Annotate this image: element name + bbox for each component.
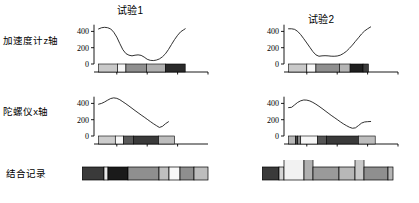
y-tick-label: 200 — [77, 116, 89, 125]
x-tick-label: 20 — [303, 147, 311, 148]
combined-segment — [104, 167, 108, 180]
column-title-trial1: 试验1 — [117, 2, 143, 17]
combined-segment — [304, 160, 313, 180]
combined-segment — [279, 167, 284, 180]
segment-band — [99, 136, 175, 144]
segment — [317, 136, 326, 144]
x-tick-label: 40 — [333, 75, 341, 76]
segment — [339, 64, 350, 72]
signal-line — [289, 27, 371, 56]
segment — [298, 136, 301, 144]
segment — [159, 136, 175, 144]
y-tick-label: 400 — [267, 27, 279, 36]
y-tick-label: 0 — [85, 60, 89, 69]
x-tick-label: 60 — [174, 75, 182, 76]
x-tick-label: 40 — [333, 147, 341, 148]
x-tick-label: 20 — [113, 75, 121, 76]
combined-segment — [128, 167, 159, 180]
combined-segment — [313, 167, 339, 180]
segment — [115, 136, 123, 144]
y-tick-label: 400 — [77, 99, 89, 108]
combined-record-trial2 — [262, 160, 402, 186]
combined-segment — [108, 167, 128, 180]
segment — [99, 136, 116, 144]
segment — [99, 64, 118, 72]
segment — [363, 64, 368, 72]
combined-segment — [180, 167, 194, 180]
x-tick-label: 40 — [143, 147, 151, 148]
y-tick-label: 400 — [267, 99, 279, 108]
x-tick-label: 80 — [394, 75, 402, 76]
x-tick-label: 20 — [303, 75, 311, 76]
panel-gyro-trial2: 020040020406080 — [252, 88, 404, 148]
x-tick-label: 60 — [364, 75, 372, 76]
segment-band — [289, 64, 369, 72]
segment — [307, 64, 316, 72]
y-tick-label: 200 — [77, 44, 89, 53]
x-tick-label: 60 — [364, 147, 372, 148]
y-tick-label: 0 — [275, 132, 279, 141]
y-tick-label: 200 — [267, 116, 279, 125]
segment — [124, 136, 134, 144]
combined-segment — [194, 167, 208, 180]
segment — [295, 136, 297, 144]
segment — [316, 64, 340, 72]
segment — [165, 64, 185, 72]
row-label-combined-record: 结合记录 — [6, 166, 46, 180]
combined-segment — [388, 167, 393, 180]
combined-segment — [339, 167, 355, 180]
segment — [118, 64, 126, 72]
signal-line — [99, 27, 186, 60]
figure-root: 试验1 试验2 加速度计z轴 陀螺仪x轴 结合记录 02004002040608… — [0, 0, 419, 203]
x-tick-label: 80 — [394, 147, 402, 148]
x-tick-label: 60 — [174, 147, 182, 148]
y-tick-label: 400 — [77, 27, 89, 36]
combined-segment — [159, 167, 169, 180]
segment — [358, 136, 375, 144]
combined-segment — [355, 160, 364, 180]
panel-gyro-trial1: 0200400204060 — [62, 88, 214, 148]
segment — [134, 136, 159, 144]
panel-accel-trial1: 020040020406080 — [62, 16, 214, 76]
combined-segment — [262, 167, 279, 180]
segment — [301, 136, 318, 144]
segment — [350, 64, 363, 72]
y-tick-label: 0 — [275, 60, 279, 69]
combined-segment — [169, 167, 180, 180]
x-tick-label: 80 — [204, 75, 212, 76]
combined-record-trial1 — [82, 160, 222, 186]
y-tick-label: 200 — [267, 44, 279, 53]
combined-segment — [82, 167, 104, 180]
panel-accel-trial2: 020040020406080 — [252, 16, 404, 76]
x-tick-label: 20 — [113, 147, 121, 148]
combined-segment — [284, 160, 304, 180]
combined-segment — [364, 167, 388, 180]
segment-band — [99, 64, 186, 72]
segment-band — [289, 136, 376, 144]
x-tick-label: 40 — [143, 75, 151, 76]
segment — [289, 136, 296, 144]
signal-line — [289, 100, 371, 128]
y-tick-label: 0 — [85, 132, 89, 141]
signal-line — [99, 98, 169, 128]
segment — [126, 64, 147, 72]
row-label-gyroscope: 陀螺仪x轴 — [3, 104, 48, 118]
segment — [289, 64, 307, 72]
segment — [327, 136, 359, 144]
row-label-accelerometer: 加速度计z轴 — [3, 33, 58, 47]
segment — [146, 64, 165, 72]
